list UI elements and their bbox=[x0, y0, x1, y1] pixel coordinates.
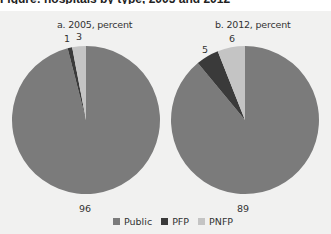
pie-title-2012: b. 2012, percent bbox=[215, 19, 290, 30]
legend-label-public: Public bbox=[124, 216, 152, 227]
swatch-pfp bbox=[161, 218, 168, 225]
legend-item-public: Public bbox=[113, 216, 152, 227]
legend-item-pnfp: PNFP bbox=[198, 216, 233, 227]
pie-chart-2005 bbox=[12, 46, 160, 194]
pie-charts bbox=[0, 0, 331, 234]
label-2005-public: 96 bbox=[79, 203, 91, 214]
swatch-public bbox=[113, 218, 120, 225]
pie-chart-2012 bbox=[171, 46, 319, 194]
legend-item-pfp: PFP bbox=[161, 216, 189, 227]
label-2012-pnfp: 6 bbox=[229, 33, 235, 44]
label-2012-pfp: 5 bbox=[202, 44, 208, 55]
legend: Public PFP PNFP bbox=[113, 216, 242, 227]
swatch-pnfp bbox=[198, 218, 205, 225]
label-2005-pfp: 1 bbox=[64, 33, 70, 44]
legend-label-pfp: PFP bbox=[172, 216, 189, 227]
legend-label-pnfp: PNFP bbox=[209, 216, 233, 227]
label-2012-public: 89 bbox=[237, 203, 249, 214]
label-2005-pnfp: 3 bbox=[76, 31, 82, 42]
pie-title-2005: a. 2005, percent bbox=[57, 19, 132, 30]
